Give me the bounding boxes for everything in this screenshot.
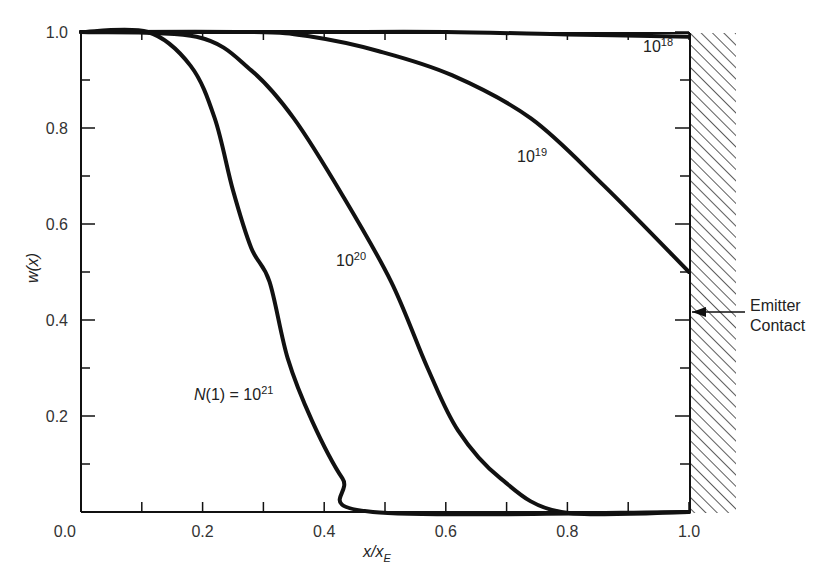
y-tick-label: 0.8 bbox=[46, 120, 68, 137]
x-tick-label: 0.8 bbox=[556, 523, 578, 540]
y-tick-label: 0.2 bbox=[46, 408, 68, 425]
label-1e20: 1020 bbox=[336, 250, 366, 269]
y-tick-label: 0.6 bbox=[46, 216, 68, 233]
curve-10-20 bbox=[81, 32, 689, 514]
x-tick-label: 0.2 bbox=[191, 523, 213, 540]
x-tick-label: 1.0 bbox=[678, 523, 700, 540]
label-1e18: 1018 bbox=[643, 36, 673, 55]
curves bbox=[81, 30, 689, 515]
emitter-label-line2: Contact bbox=[750, 317, 806, 334]
x-tick-label: 0.4 bbox=[313, 523, 335, 540]
emitter-label-line1: Emitter bbox=[750, 297, 801, 314]
x-tick-label: 0.0 bbox=[54, 523, 76, 540]
y-tick-label: 0.4 bbox=[46, 312, 68, 329]
x-axis-label: x/xE bbox=[362, 543, 391, 564]
chart: 0.00.20.40.60.81.00.20.40.60.81.0 1018 1… bbox=[0, 0, 830, 583]
label-1e19: 1019 bbox=[517, 146, 547, 165]
tick-labels: 0.00.20.40.60.81.00.20.40.60.81.0 bbox=[46, 24, 700, 540]
label-1e21: N(1) = 1021 bbox=[194, 384, 273, 403]
emitter-contact-region bbox=[690, 33, 736, 513]
y-axis-label: w(x) bbox=[24, 253, 41, 283]
y-tick-label: 1.0 bbox=[46, 24, 68, 41]
curve-10-19 bbox=[81, 32, 689, 272]
x-tick-label: 0.6 bbox=[435, 523, 457, 540]
